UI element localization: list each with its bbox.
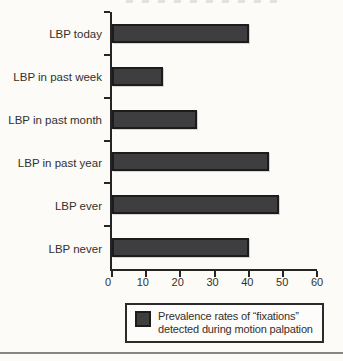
category-axis-tick — [104, 11, 110, 13]
bar-lbp-past-month — [112, 110, 197, 129]
category-label: LBP never — [0, 228, 102, 271]
category-axis-tick — [104, 140, 110, 142]
category-axis-labels: LBP today LBP in past week LBP in past m… — [0, 12, 102, 271]
legend-label: Prevalence rates of “fixations” detected… — [158, 310, 313, 336]
axis-tick-label: 40 — [241, 276, 253, 288]
category-axis-tick — [104, 225, 110, 227]
category-label: LBP today — [0, 12, 102, 55]
bar-row — [112, 98, 317, 141]
value-axis-labels: 0 10 20 30 40 50 60 — [108, 276, 317, 290]
bar-lbp-ever — [112, 195, 279, 214]
category-label: LBP in past week — [0, 55, 102, 98]
axis-tick-label: 60 — [311, 276, 323, 288]
axis-tick-label: 20 — [172, 276, 184, 288]
axis-tick-label: 10 — [137, 276, 149, 288]
bar-row — [112, 183, 317, 226]
bar-lbp-today — [112, 24, 249, 43]
category-axis-tick — [104, 182, 110, 184]
bar-lbp-never — [112, 238, 249, 257]
bar-row — [112, 140, 317, 183]
legend-swatch-icon — [135, 311, 151, 327]
bar-lbp-past-week — [112, 67, 163, 86]
category-label: LBP ever — [0, 185, 102, 228]
bar-lbp-past-year — [112, 152, 269, 171]
bar-row — [112, 55, 317, 98]
axis-tick-label: 50 — [276, 276, 288, 288]
cropped-title-remnant — [126, 0, 278, 3]
chart-legend: Prevalence rates of “fixations” detected… — [125, 303, 324, 343]
legend-label-line2: detected during motion palpation — [158, 323, 313, 335]
bar-row — [112, 226, 317, 269]
plot-area — [110, 12, 317, 271]
bar-row — [112, 12, 317, 55]
category-label: LBP in past year — [0, 141, 102, 184]
bar-chart-figure: LBP today LBP in past week LBP in past m… — [0, 0, 343, 361]
bar-rows — [112, 12, 317, 269]
legend-label-line1: Prevalence rates of “fixations” — [158, 310, 299, 322]
axis-tick-label: 30 — [206, 276, 218, 288]
category-label: LBP in past month — [0, 98, 102, 141]
page-divider-rule — [0, 352, 343, 354]
category-axis-tick — [104, 97, 110, 99]
axis-tick-label: 0 — [105, 276, 111, 288]
category-axis-tick — [104, 54, 110, 56]
